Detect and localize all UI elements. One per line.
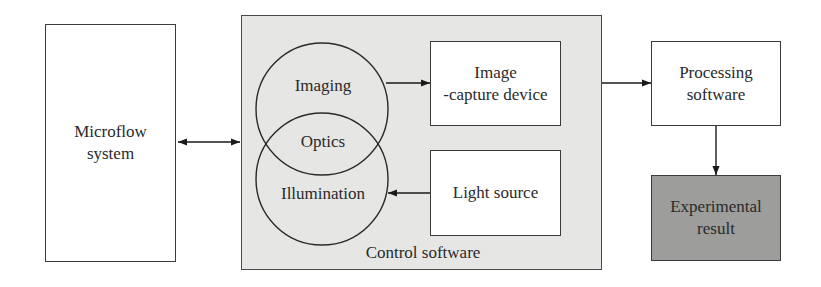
optics-label: Optics	[301, 132, 345, 152]
imaging-label: Imaging	[295, 76, 352, 96]
illumination-label: Illumination	[281, 184, 365, 204]
control-software-label: Control software	[366, 243, 481, 263]
imaging-circle	[256, 43, 388, 175]
